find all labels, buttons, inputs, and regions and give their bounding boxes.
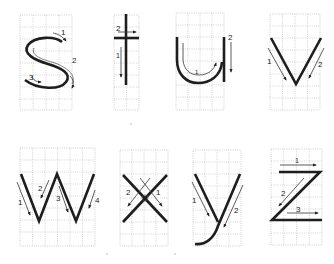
- stroke-number-1: 1: [18, 198, 23, 207]
- stroke-number-2: 2: [116, 24, 121, 33]
- stroke-number-2: 2: [126, 188, 131, 197]
- stroke-number-2: 2: [38, 184, 43, 193]
- stroke-number-1: 1: [192, 196, 197, 205]
- stroke-number-1: 1: [267, 57, 272, 66]
- stroke-number-1: 1: [116, 52, 120, 59]
- stroke-number-2: 2: [228, 33, 233, 42]
- stroke-number-1: 1: [156, 188, 161, 197]
- stroke-number-1: 1: [195, 69, 199, 75]
- speck: [106, 253, 108, 255]
- stroke-number-1: 1: [61, 28, 66, 37]
- speck: [174, 253, 176, 255]
- stroke-number-1: 1: [295, 157, 299, 164]
- stroke-number-2: 2: [234, 206, 239, 215]
- letter-v-panel: 1 2: [267, 14, 324, 110]
- stroke-number-2: 2: [281, 189, 286, 198]
- letter-z-panel: 1 2 3: [271, 149, 322, 245]
- letter-t-panel: 2 1: [114, 14, 139, 110]
- u-bowl-stroke: [177, 37, 222, 83]
- stroke-number-2: 2: [72, 56, 77, 65]
- stroke-number-4: 4: [95, 196, 100, 205]
- letter-u-panel: 2 1: [176, 13, 233, 110]
- grid-v: [270, 14, 320, 110]
- stroke-number-3: 3: [56, 194, 61, 203]
- letter-x-panel: 1 2: [120, 150, 168, 246]
- v-letter-stroke: [271, 38, 321, 84]
- letter-guide-canvas: 1 2 3 2 1 2 1: [0, 0, 334, 264]
- stroke-number-3: 3: [29, 73, 34, 82]
- letter-y-panel: 1 2: [192, 150, 243, 246]
- y-stroke-1: [195, 174, 218, 222]
- speck: [130, 123, 132, 125]
- letter-s-panel: 1 2 3: [20, 15, 77, 110]
- letter-w-panel: 1 2 3 4: [17, 148, 100, 246]
- stroke-number-3: 3: [296, 205, 301, 214]
- stroke-number-2: 2: [318, 60, 323, 69]
